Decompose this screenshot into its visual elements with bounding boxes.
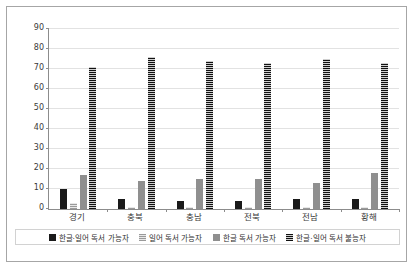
y-tick-label: 20 bbox=[10, 164, 44, 172]
y-tick-label: 70 bbox=[10, 64, 44, 72]
bar[interactable] bbox=[361, 207, 368, 209]
legend-item[interactable]: 한글·일어 독서 불능자 bbox=[286, 232, 366, 243]
bar[interactable] bbox=[70, 203, 77, 209]
y-axis: 0102030405060708090 bbox=[7, 29, 44, 210]
y-tick-label: 30 bbox=[10, 144, 44, 152]
bar[interactable] bbox=[196, 179, 203, 209]
legend-item[interactable]: 한글·일어 독서 가능자 bbox=[49, 232, 129, 243]
bar[interactable] bbox=[118, 199, 125, 209]
legend-swatch-icon bbox=[49, 234, 56, 241]
bar-group bbox=[282, 29, 340, 209]
bar[interactable] bbox=[89, 67, 96, 209]
bar[interactable] bbox=[245, 207, 252, 209]
bar[interactable] bbox=[255, 179, 262, 209]
y-tick-label: 0 bbox=[10, 204, 44, 212]
x-axis: 경기충북충남전북전남황해 bbox=[48, 212, 399, 226]
bar[interactable] bbox=[381, 63, 388, 209]
legend-item[interactable]: 한글 독서 가능자 bbox=[213, 232, 277, 243]
legend-label: 한글 독서 가능자 bbox=[223, 232, 277, 243]
y-tick-label: 10 bbox=[10, 184, 44, 192]
legend-swatch-icon bbox=[213, 234, 220, 241]
y-tick-label: 60 bbox=[10, 84, 44, 92]
x-tick-label: 충북 bbox=[106, 212, 164, 223]
x-tick-label: 전남 bbox=[281, 212, 339, 223]
bar[interactable] bbox=[177, 201, 184, 209]
legend-item[interactable]: 일어 독서 가능자 bbox=[139, 232, 203, 243]
bar[interactable] bbox=[264, 63, 271, 209]
legend-swatch-icon bbox=[286, 234, 293, 241]
bar-group bbox=[107, 29, 165, 209]
bar[interactable] bbox=[371, 173, 378, 209]
plot-wrapper: 0102030405060708090 경기충북충남전북전남황해 bbox=[7, 7, 408, 221]
bar-group bbox=[49, 29, 107, 209]
legend-label: 한글·일어 독서 가능자 bbox=[59, 232, 129, 243]
bar[interactable] bbox=[60, 189, 67, 209]
plot-area bbox=[48, 29, 399, 210]
bar[interactable] bbox=[313, 183, 320, 209]
bar-group bbox=[166, 29, 224, 209]
x-tick-label: 충남 bbox=[165, 212, 223, 223]
bar[interactable] bbox=[186, 207, 193, 209]
bar[interactable] bbox=[235, 201, 242, 209]
y-tick-label: 90 bbox=[10, 24, 44, 32]
bar[interactable] bbox=[80, 175, 87, 209]
bar[interactable] bbox=[352, 199, 359, 209]
chart-legend: 한글·일어 독서 가능자일어 독서 가능자한글 독서 가능자한글·일어 독서 불… bbox=[15, 229, 400, 245]
bar-group bbox=[224, 29, 282, 209]
bar[interactable] bbox=[293, 199, 300, 209]
x-tick-mark bbox=[399, 209, 400, 212]
y-tick-label: 80 bbox=[10, 44, 44, 52]
x-tick-label: 전북 bbox=[223, 212, 281, 223]
legend-label: 일어 독서 가능자 bbox=[149, 232, 203, 243]
bar[interactable] bbox=[128, 207, 135, 209]
y-tick-label: 50 bbox=[10, 104, 44, 112]
chart-frame: 0102030405060708090 경기충북충남전북전남황해 한글·일어 독… bbox=[6, 6, 407, 262]
legend-label: 한글·일어 독서 불능자 bbox=[296, 232, 366, 243]
bar[interactable] bbox=[138, 181, 145, 209]
bar[interactable] bbox=[206, 61, 213, 209]
x-tick-label: 황해 bbox=[340, 212, 398, 223]
legend-swatch-icon bbox=[139, 234, 146, 241]
bar[interactable] bbox=[303, 207, 310, 209]
y-tick-label: 40 bbox=[10, 124, 44, 132]
bar[interactable] bbox=[323, 59, 330, 209]
bar[interactable] bbox=[148, 57, 155, 209]
x-tick-label: 경기 bbox=[48, 212, 106, 223]
bar-group bbox=[341, 29, 399, 209]
